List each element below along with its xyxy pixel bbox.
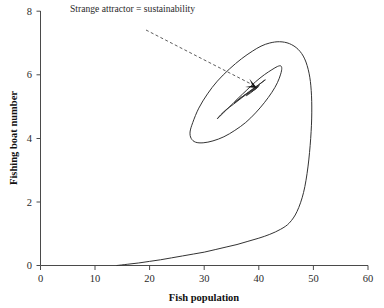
x-tick-label-20: 20 [144,273,155,284]
x-tick-label-30: 30 [199,273,210,284]
y-tick-label-4: 4 [27,133,33,144]
y-tick-label-0: 0 [27,260,32,271]
phase-portrait-figure: 0 2 4 6 8 0 10 20 30 40 50 60 Fish popul… [0,0,384,308]
trajectory-curve [117,42,312,266]
x-tick-label-10: 10 [90,273,101,284]
x-tick-label-0: 0 [38,273,43,284]
y-tick-label-6: 6 [27,69,32,80]
annotation-group: Strange attractor = sustainability [70,3,257,88]
y-tick-label-2: 2 [27,197,32,208]
chart-canvas: 0 2 4 6 8 0 10 20 30 40 50 60 Fish popul… [0,0,384,308]
annotation-leader-line [146,30,255,86]
y-axis-title: Fishing boat number [8,91,19,185]
axes-group [41,11,369,266]
x-tick-label-50: 50 [308,273,319,284]
annotation-label: Strange attractor = sustainability [70,3,195,14]
y-axis-ticks: 0 2 4 6 8 [27,6,41,271]
x-axis-title: Fish population [169,292,239,303]
x-axis-ticks: 0 10 20 30 40 50 60 [38,266,373,285]
x-tick-label-40: 40 [254,273,265,284]
annotation-arrow-icon [245,79,257,88]
y-tick-label-8: 8 [27,6,32,17]
x-tick-label-60: 60 [363,273,374,284]
